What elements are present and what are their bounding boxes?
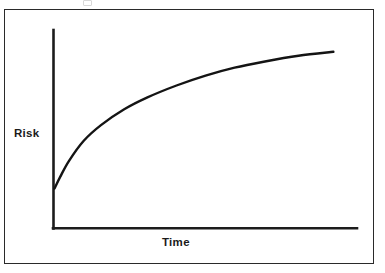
y-axis-label: Risk: [14, 127, 40, 139]
figure-root: Risk Time: [0, 0, 385, 273]
x-axis-label: Time: [162, 236, 190, 248]
scan-artifact: [83, 0, 92, 6]
chart-frame-border: [4, 9, 374, 264]
